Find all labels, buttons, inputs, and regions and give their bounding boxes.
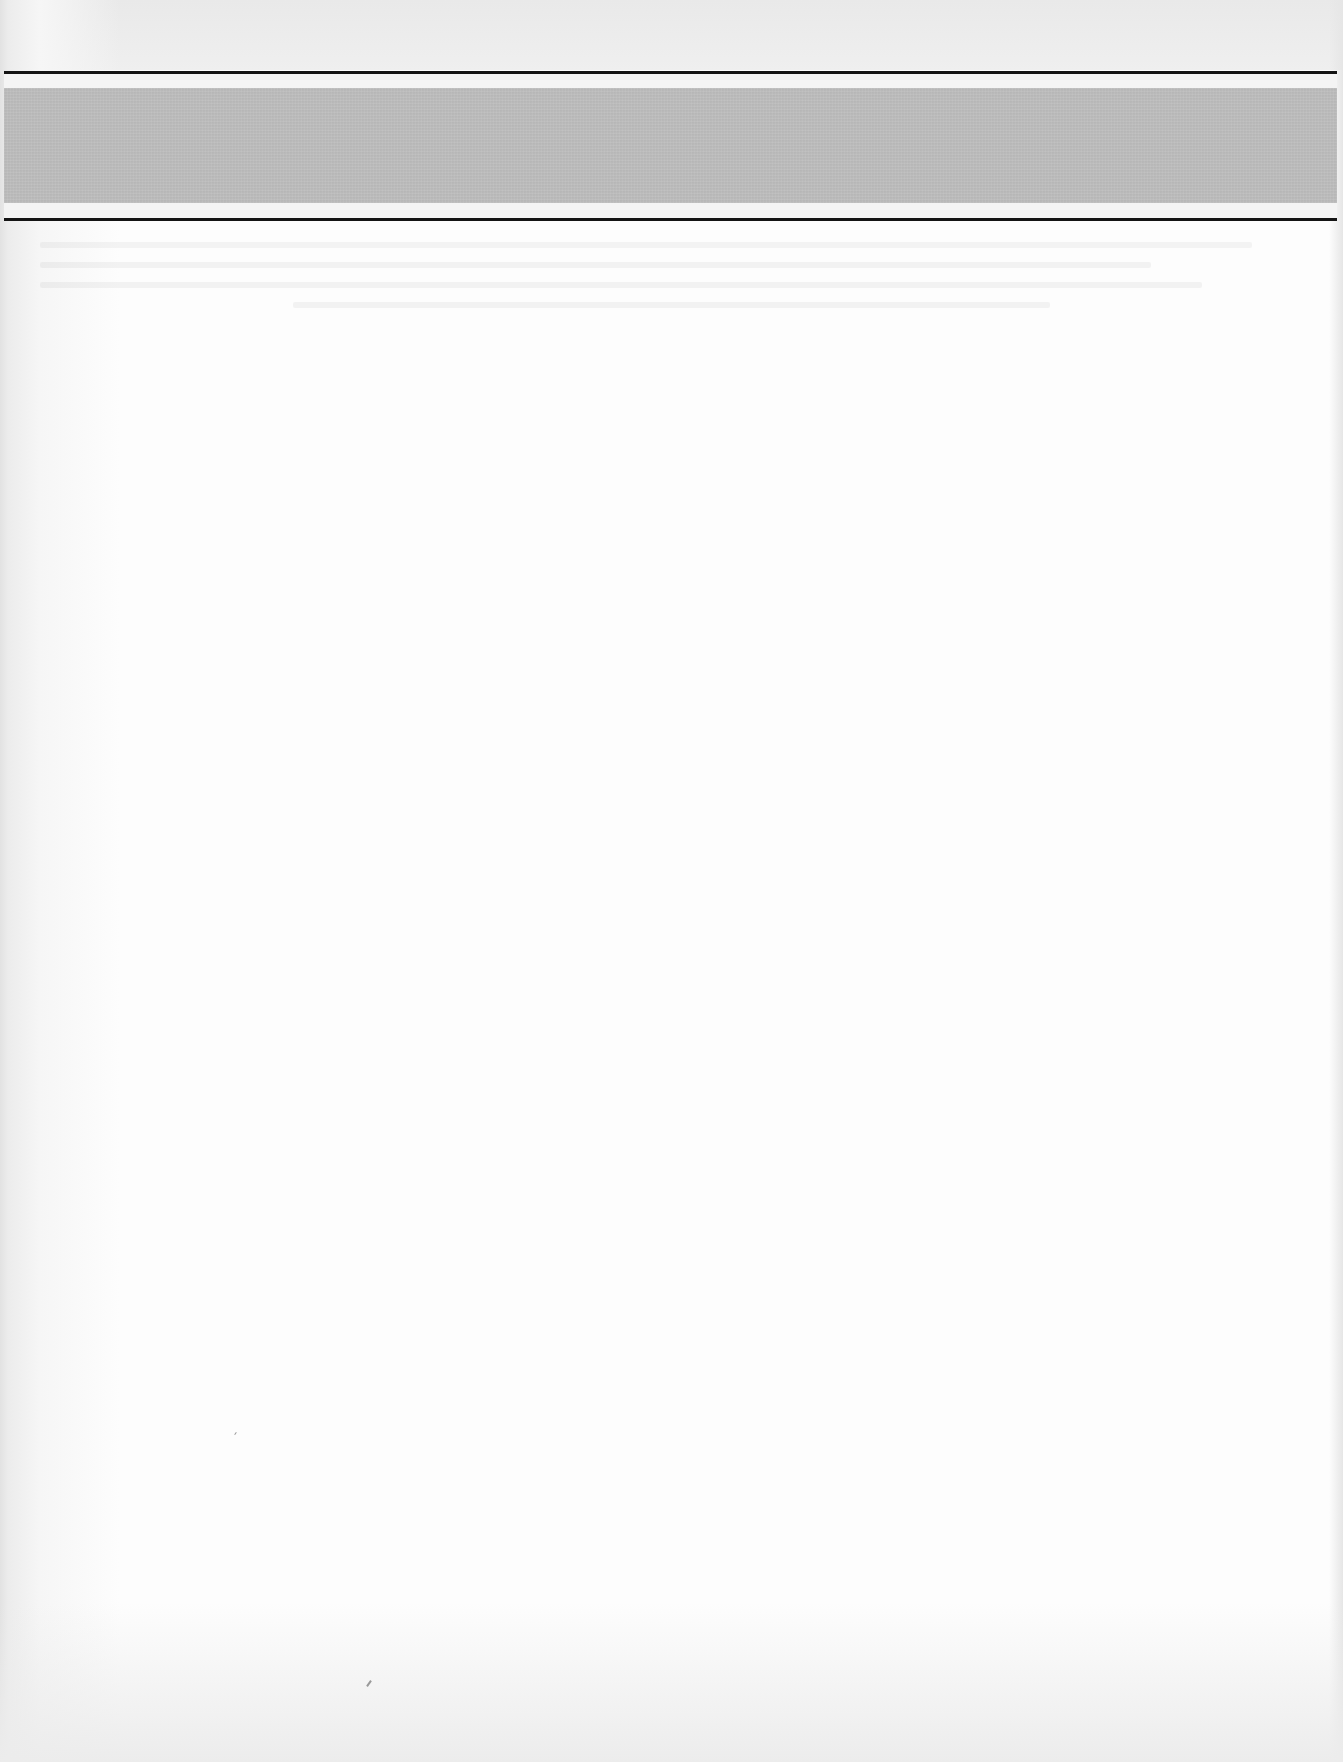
document-page — [0, 0, 1343, 1762]
scan-speck — [234, 1432, 237, 1435]
header-band — [4, 88, 1337, 203]
header-rule-bottom — [4, 218, 1337, 221]
header-gap-bottom — [4, 203, 1337, 218]
header-gap-top — [4, 74, 1337, 88]
bleed-through-text — [40, 228, 1303, 388]
page-top-margin — [0, 0, 1343, 70]
scan-shadow-right — [1329, 0, 1343, 1762]
scan-shadow-bottom — [0, 1602, 1343, 1762]
